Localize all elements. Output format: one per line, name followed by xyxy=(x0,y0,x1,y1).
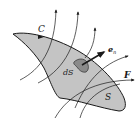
flux-diagram: C S dS en F xyxy=(0,0,140,123)
field-line-3 xyxy=(85,28,95,58)
label-c: C xyxy=(38,24,45,34)
label-ds: dS xyxy=(63,68,74,77)
label-s: S xyxy=(105,92,111,102)
label-en: en xyxy=(108,44,116,55)
label-f: F xyxy=(123,70,131,80)
